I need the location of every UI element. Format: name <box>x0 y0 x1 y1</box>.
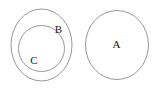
set-label-b: B <box>55 23 62 35</box>
set-diagram-svg: B C A <box>0 0 159 89</box>
set-label-c: C <box>30 54 37 66</box>
set-label-a: A <box>113 38 121 50</box>
set-diagram-canvas: B C A <box>0 0 159 89</box>
